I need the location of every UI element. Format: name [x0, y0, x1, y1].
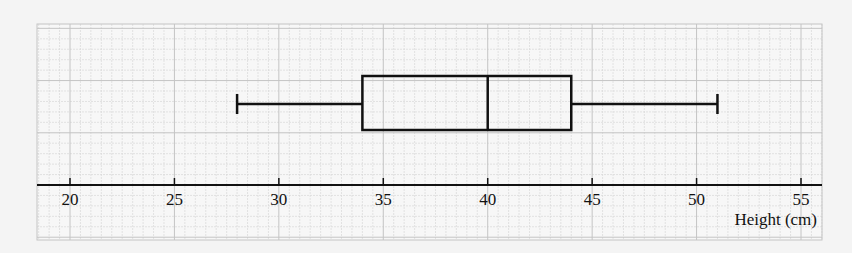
x-tick-label: 55 [793, 190, 810, 209]
x-tick-label: 20 [62, 190, 79, 209]
x-tick-label: 45 [584, 190, 601, 209]
x-tick-label: 40 [479, 190, 496, 209]
x-tick-label: 35 [375, 190, 392, 209]
x-tick-label: 25 [166, 190, 183, 209]
box-plot-chart: 2025303540455055 Height (cm) [0, 0, 852, 253]
x-tick-label: 50 [688, 190, 705, 209]
x-tick-label: 30 [270, 190, 287, 209]
x-axis-title: Height (cm) [734, 210, 817, 229]
